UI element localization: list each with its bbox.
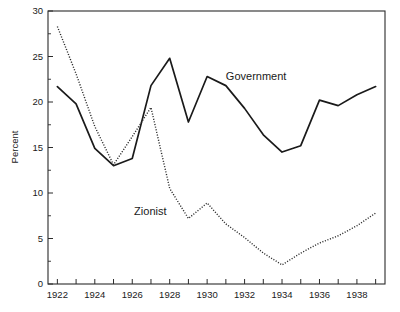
x-tick-label: 1936 bbox=[309, 289, 330, 300]
series-line-government bbox=[57, 58, 375, 165]
y-tick-label: 20 bbox=[32, 96, 43, 107]
x-tick-label: 1922 bbox=[47, 289, 68, 300]
y-tick-label: 25 bbox=[32, 51, 43, 62]
x-tick-label: 1934 bbox=[271, 289, 292, 300]
plot-frame bbox=[48, 11, 385, 284]
series-annotation-labels: GovernmentZionist bbox=[134, 70, 286, 217]
series-label-zionist: Zionist bbox=[134, 205, 166, 217]
y-tick-label: 0 bbox=[38, 278, 43, 289]
x-tick-label: 1930 bbox=[197, 289, 218, 300]
x-tick-label: 1938 bbox=[346, 289, 367, 300]
series-line-zionist bbox=[57, 26, 375, 264]
y-axis-ticks bbox=[48, 11, 53, 284]
y-tick-label: 10 bbox=[32, 187, 43, 198]
series-label-government: Government bbox=[226, 70, 287, 82]
y-axis-title: Percent bbox=[9, 130, 20, 163]
data-series-group bbox=[57, 26, 375, 264]
y-tick-label: 30 bbox=[32, 5, 43, 16]
x-axis-ticks bbox=[57, 279, 375, 284]
x-tick-label: 1928 bbox=[159, 289, 180, 300]
chart-container: 051015202530 192219241926192819301932193… bbox=[0, 0, 400, 312]
line-chart-svg: 051015202530 192219241926192819301932193… bbox=[0, 0, 400, 312]
y-axis-tick-labels: 051015202530 bbox=[32, 5, 43, 289]
x-axis-tick-labels: 192219241926192819301932193419361938 bbox=[47, 289, 368, 300]
y-tick-label: 15 bbox=[32, 142, 43, 153]
y-tick-label: 5 bbox=[38, 233, 43, 244]
x-tick-label: 1926 bbox=[122, 289, 143, 300]
x-tick-label: 1924 bbox=[84, 289, 105, 300]
x-tick-label: 1932 bbox=[234, 289, 255, 300]
